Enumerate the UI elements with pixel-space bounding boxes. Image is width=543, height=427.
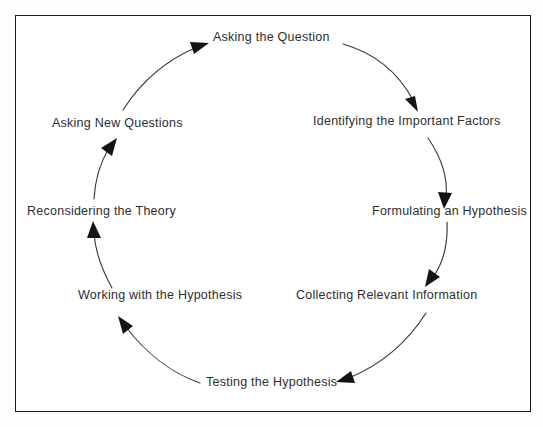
cycle-diagram-figure: Asking the Question Identifying the Impo…: [0, 0, 543, 427]
cycle-node-formulating-an-hypothesis: Formulating an Hypothesis: [372, 205, 527, 218]
cycle-node-reconsidering-the-theory: Reconsidering the Theory: [27, 205, 176, 218]
cycle-node-working-with-the-hypothesis: Working with the Hypothesis: [78, 289, 242, 302]
cycle-node-asking-the-question: Asking the Question: [213, 31, 330, 44]
cycle-node-identifying-the-important-factors: Identifying the Important Factors: [313, 115, 501, 128]
cycle-node-asking-new-questions: Asking New Questions: [52, 117, 183, 130]
cycle-node-collecting-relevant-information: Collecting Relevant Information: [296, 289, 477, 302]
cycle-node-testing-the-hypothesis: Testing the Hypothesis: [206, 376, 337, 389]
